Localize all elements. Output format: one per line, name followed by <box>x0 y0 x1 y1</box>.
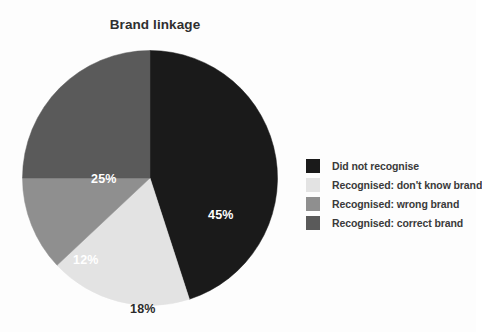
chart-legend: Did not recognise Recognised: don't know… <box>306 157 470 233</box>
legend-item-correct-brand: Recognised: correct brand <box>306 214 470 231</box>
legend-item-did-not-recognise: Did not recognise <box>306 157 470 174</box>
legend-swatch-icon <box>306 159 320 173</box>
pie-chart: 45% 18% 12% 25% <box>22 50 278 306</box>
pie-slice-value-did-not-recognise: 45% <box>208 208 234 222</box>
pie-chart-svg <box>22 50 278 306</box>
legend-item-label: Recognised: wrong brand <box>332 198 459 210</box>
pie-slice-value-wrong-brand: 12% <box>73 253 99 267</box>
legend-swatch-icon <box>306 216 320 230</box>
legend-item-label: Recognised: correct brand <box>332 217 463 229</box>
pie-slice-value-dont-know-brand: 18% <box>130 302 156 316</box>
legend-item-dont-know-brand: Recognised: don't know brand <box>306 176 470 193</box>
page-title: Brand linkage <box>0 17 310 32</box>
pie-slice-value-correct-brand: 25% <box>91 172 117 186</box>
legend-item-label: Did not recognise <box>332 160 419 172</box>
legend-item-wrong-brand: Recognised: wrong brand <box>306 195 470 212</box>
legend-item-label: Recognised: don't know brand <box>332 179 482 191</box>
pie-slice <box>23 51 151 179</box>
legend-swatch-icon <box>306 197 320 211</box>
legend-swatch-icon <box>306 178 320 192</box>
